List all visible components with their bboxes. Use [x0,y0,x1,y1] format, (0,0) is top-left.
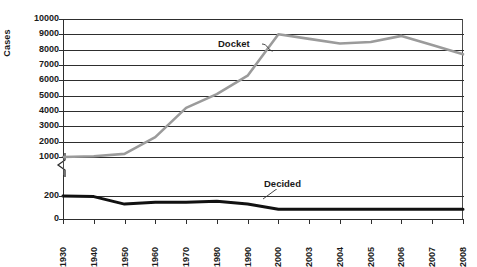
y-tick-label: 7000 [39,60,59,69]
y-axis-upper-segment [63,19,64,157]
x-tick-mark [432,219,433,224]
y-tick-label: 10000 [34,14,59,23]
x-tick-mark [186,219,187,224]
y-tick-label: 200 [44,191,59,200]
gridline [64,50,464,51]
y-tick-mark [59,80,63,81]
gridline [64,65,464,66]
x-tick-mark [217,219,218,224]
gridline [64,142,464,143]
y-tick-label: 9000 [39,29,59,38]
y-tick-mark [59,142,63,143]
y-tick-mark [59,65,63,66]
y-tick-mark [59,157,63,158]
x-tick-mark [278,219,279,224]
x-tick-mark [63,219,64,224]
gridline [64,96,464,97]
x-tick-label: 1930 [58,227,68,267]
y-tick-label: 2000 [39,137,59,146]
plot-area [63,19,463,219]
y-tick-label: 5000 [39,91,59,100]
x-tick-mark [155,219,156,224]
gridline [64,111,464,112]
x-tick-mark [401,219,402,224]
y-tick-mark [59,219,63,220]
x-tick-label: 1940 [89,227,99,267]
y-tick-mark [59,19,63,20]
x-tick-mark [309,219,310,224]
x-tick-label: 2008 [458,227,468,267]
annotation-decided: Decided [262,178,303,189]
gridline [64,34,464,35]
gridline [64,196,464,197]
y-tick-label: 8000 [39,45,59,54]
x-tick-label: 2007 [427,227,437,267]
y-tick-mark [59,50,63,51]
gridline [64,126,464,127]
y-tick-label: 4000 [39,106,59,115]
x-tick-label: 1950 [120,227,130,267]
y-tick-mark [59,196,63,197]
x-tick-label: 1990 [243,227,253,267]
x-tick-mark [125,219,126,224]
y-tick-mark [59,111,63,112]
y-tick-label: 6000 [39,75,59,84]
x-tick-mark [94,219,95,224]
x-tick-label: 2003 [304,227,314,267]
x-tick-label: 2004 [335,227,345,267]
y-tick-mark [59,96,63,97]
x-axis-line [63,219,463,220]
x-tick-label: 1980 [212,227,222,267]
x-tick-label: 2000 [273,227,283,267]
x-tick-label: 1960 [150,227,160,267]
y-axis-ticks: 1000090008000700060005000400030002000100… [0,0,59,267]
x-tick-mark [371,219,372,224]
y-tick-label: 3000 [39,121,59,130]
x-tick-label: 2006 [396,227,406,267]
y-tick-mark [59,126,63,127]
x-tick-mark [248,219,249,224]
gridline [64,157,464,158]
y-axis-lower-segment [63,175,64,220]
x-tick-mark [340,219,341,224]
y-tick-mark [59,34,63,35]
x-tick-mark [463,219,464,224]
chart-container: Cases 1000090008000700060005000400030002… [0,0,477,267]
gridline [64,80,464,81]
x-tick-label: 2005 [366,227,376,267]
annotation-docket: Docket [216,38,252,49]
x-tick-label: 1970 [181,227,191,267]
